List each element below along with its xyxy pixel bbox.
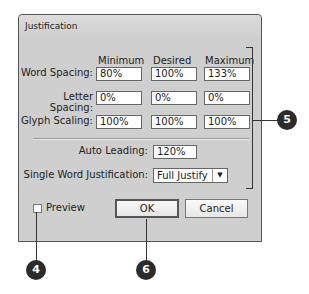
column-header-minimum: Minimum (98, 55, 144, 66)
word-spacing-maximum-input[interactable]: 133% (204, 67, 250, 81)
column-header-maximum: Maximum (205, 55, 254, 66)
word-spacing-minimum-input[interactable]: 80% (96, 67, 142, 81)
glyph-scaling-minimum-input[interactable]: 100% (96, 115, 142, 129)
single-word-justification-value: Full Justify (157, 170, 208, 181)
callout-5-badge: 5 (277, 110, 297, 130)
title-bar[interactable]: Justification (19, 15, 261, 37)
callout-4-badge: 4 (26, 260, 46, 280)
preview-label: Preview (46, 202, 85, 213)
glyph-scaling-maximum-input[interactable]: 100% (204, 115, 250, 129)
word-spacing-label: Word Spacing: (21, 67, 93, 78)
callout-6-badge: 6 (136, 260, 156, 280)
letter-spacing-maximum-input[interactable]: 0% (204, 91, 250, 105)
preview-checkbox[interactable] (33, 204, 42, 213)
letter-spacing-desired-input[interactable]: 0% (151, 91, 197, 105)
glyph-scaling-desired-input[interactable]: 100% (151, 115, 197, 129)
word-spacing-desired-input[interactable]: 100% (151, 67, 197, 81)
callout-6-leader (146, 219, 147, 262)
glyph-scaling-label: Glyph Scaling: (21, 115, 93, 126)
cancel-button[interactable]: Cancel (185, 199, 248, 218)
ok-button[interactable]: OK (115, 199, 179, 218)
bracket-bottom (246, 188, 253, 189)
separator (33, 138, 249, 140)
single-word-justification-select[interactable]: Full Justify ▼ (153, 168, 228, 183)
callout-5-leader (252, 120, 278, 121)
auto-leading-input[interactable]: 120% (153, 145, 197, 159)
justification-dialog: Justification Minimum Desired Maximum Wo… (18, 14, 262, 242)
single-word-justification-label: Single Word Justification: (24, 169, 148, 180)
bracket-vertical (252, 47, 253, 189)
dialog-title: Justification (25, 21, 77, 31)
auto-leading-label: Auto Leading: (79, 145, 148, 156)
callout-4-leader (36, 212, 37, 262)
column-header-desired: Desired (153, 55, 191, 66)
letter-spacing-minimum-input[interactable]: 0% (96, 91, 142, 105)
dropdown-arrow-icon: ▼ (212, 169, 227, 182)
letter-spacing-label: Letter Spacing: (19, 91, 93, 113)
